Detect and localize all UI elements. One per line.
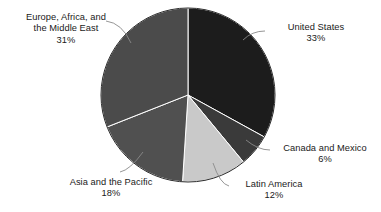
pie-label-europe-africa-middle-east: Europe, Africa, and the Middle East 31%	[6, 12, 126, 46]
pie-label-united-states: United States 33%	[268, 22, 364, 45]
pie-label-europe-value: 31%	[6, 35, 126, 46]
pie-label-united-states-value: 33%	[268, 33, 364, 44]
pie-label-canada-and-mexico-name: Canada and Mexico	[272, 143, 378, 154]
pie-label-canada-and-mexico: Canada and Mexico 6%	[272, 143, 378, 166]
pie-label-canada-and-mexico-value: 6%	[272, 154, 378, 165]
pie-label-asia-and-the-pacific-value: 18%	[55, 188, 167, 199]
pie-label-europe-line1: Europe, Africa, and	[6, 12, 126, 23]
pie-label-europe-line2: the Middle East	[6, 23, 126, 34]
pie-label-united-states-name: United States	[268, 22, 364, 33]
pie-label-latin-america: Latin America 12%	[232, 179, 316, 202]
pie-label-asia-and-the-pacific-name: Asia and the Pacific	[55, 177, 167, 188]
pie-label-latin-america-name: Latin America	[232, 179, 316, 190]
pie-chart: Europe, Africa, and the Middle East 31% …	[0, 0, 381, 212]
pie-label-asia-and-the-pacific: Asia and the Pacific 18%	[55, 177, 167, 200]
pie-label-latin-america-value: 12%	[232, 190, 316, 201]
